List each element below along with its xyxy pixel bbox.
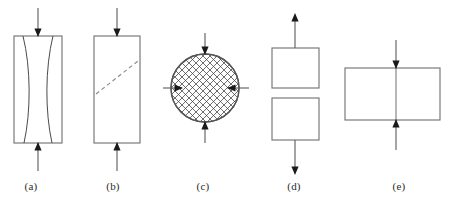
panel-c: (c): [163, 33, 249, 193]
specimen-d-block-top: [272, 48, 319, 88]
panel-label-e: (e): [393, 180, 406, 193]
panel-label-d: (d): [287, 180, 301, 193]
specimen-d-block-bottom: [272, 98, 319, 140]
panel-label-c: (c): [197, 180, 210, 193]
panel-label-b: (b): [106, 180, 120, 193]
panel-label-a: (a): [25, 180, 38, 193]
specimen-a-outline: [14, 36, 62, 143]
panel-e: (e): [345, 40, 440, 193]
figure-canvas: (a) (b) (c): [0, 0, 454, 202]
panel-b: (b): [94, 8, 140, 193]
panel-a: (a): [14, 8, 62, 193]
panel-d: (d): [272, 13, 319, 193]
specimen-b-outline: [94, 36, 140, 143]
specimen-e-outline: [345, 68, 440, 120]
specimen-d-arrowhead-bottom: [291, 167, 298, 176]
specimen-d-arrowhead-top: [291, 13, 298, 22]
failure-mode-figure: (a) (b) (c): [0, 0, 454, 202]
